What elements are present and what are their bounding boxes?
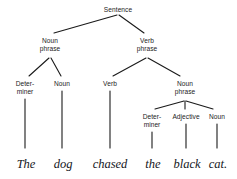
tree-node-label-line: Noun (54, 80, 70, 88)
tree-leaf-w4: the (145, 158, 160, 171)
tree-edge-np2-n2 (186, 101, 213, 109)
tree-leaf-w3: chased (93, 158, 128, 171)
tree-node-label-line: Verb (137, 37, 157, 45)
tree-edge-vp-v (113, 58, 146, 76)
tree-node-np1: Nounphrase (40, 37, 60, 52)
tree-node-label-line: phrase (40, 45, 60, 53)
tree-node-label-line: Deter- (16, 80, 35, 88)
tree-node-det1: Deter-miner (16, 80, 35, 95)
tree-edge-vp-np2 (148, 58, 180, 76)
tree-node-n2: Noun (209, 113, 225, 121)
tree-node-s: Sentence (104, 6, 132, 14)
tree-leaf-w1: The (17, 158, 36, 171)
tree-edge-s-np1 (54, 15, 117, 33)
tree-node-det2: Deter-miner (143, 113, 162, 128)
tree-node-label-line: Noun (175, 80, 195, 88)
tree-leaf-w2: dog (54, 158, 73, 171)
tree-node-vp: Verbphrase (137, 37, 157, 52)
tree-node-label-line: Noun (209, 113, 225, 121)
tree-edge-layer (0, 0, 237, 179)
syntax-tree-diagram: SentenceNounphraseVerbphraseDeter-minerN… (0, 0, 237, 179)
tree-node-adj: Adjective (172, 113, 199, 121)
tree-edge-s-vp (119, 15, 144, 33)
tree-edge-np2-det2 (155, 101, 184, 109)
tree-node-label-line: phrase (137, 45, 157, 53)
tree-node-v: Verb (103, 80, 117, 88)
tree-node-label-line: phrase (175, 88, 195, 96)
tree-node-n1: Noun (54, 80, 70, 88)
tree-node-label-line: Deter- (143, 113, 162, 121)
tree-node-label-line: Adjective (172, 113, 199, 121)
tree-node-label-line: miner (143, 121, 162, 129)
tree-node-np2: Nounphrase (175, 80, 195, 95)
tree-leaf-w6: cat. (209, 158, 227, 171)
tree-leaf-w5: black (173, 158, 200, 171)
tree-node-label-line: Noun (40, 37, 60, 45)
tree-edge-np1-n1 (51, 58, 61, 76)
tree-node-label-line: Verb (103, 80, 117, 88)
tree-edge-np1-det1 (29, 58, 49, 76)
tree-node-label-line: Sentence (104, 6, 132, 14)
tree-node-label-line: miner (16, 88, 35, 96)
